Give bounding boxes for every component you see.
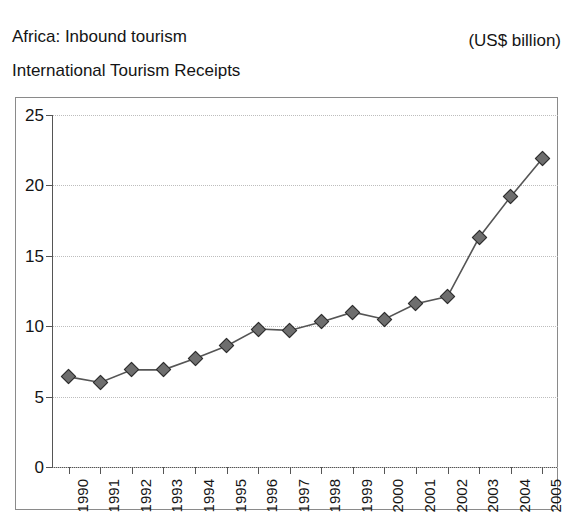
x-axis-tick-label: 1992 — [138, 479, 153, 512]
y-axis-tick — [46, 256, 53, 257]
x-axis-tick — [195, 467, 196, 474]
x-axis-tick-label: 1997 — [296, 479, 311, 512]
x-axis-tick — [227, 467, 228, 474]
x-axis-tick-label: 2003 — [485, 479, 500, 512]
gridline — [53, 467, 558, 468]
x-axis-tick-label: 2000 — [390, 479, 405, 512]
x-axis-tick — [290, 467, 291, 474]
chart-subtitle: International Tourism Receipts — [12, 56, 561, 86]
x-axis-tick-label: 1994 — [201, 479, 216, 512]
y-axis-tick-label: 0 — [18, 459, 44, 476]
x-axis-tick — [416, 467, 417, 474]
y-axis-tick — [46, 326, 53, 327]
x-axis-tick-label: 1990 — [75, 479, 90, 512]
x-axis-tick — [384, 467, 385, 474]
x-axis-tick-label: 2002 — [454, 479, 469, 512]
y-axis-tick — [46, 115, 53, 116]
chart-frame: 0510152025 19901991199219931994199519961… — [15, 97, 558, 510]
x-axis-tick — [132, 467, 133, 474]
x-axis-tick — [542, 467, 543, 474]
y-axis-tick-label: 25 — [18, 107, 44, 124]
x-axis-tick-label: 2005 — [548, 479, 563, 512]
y-axis-labels: 0510152025 — [16, 98, 44, 511]
x-axis-tick — [511, 467, 512, 474]
x-axis-tick — [163, 467, 164, 474]
x-axis-tick-label: 1998 — [327, 479, 342, 512]
x-axis-tick — [258, 467, 259, 474]
x-axis-tick-label: 1991 — [106, 479, 121, 512]
x-axis-tick — [321, 467, 322, 474]
plot-area — [53, 115, 558, 467]
y-axis-tick-label: 10 — [18, 318, 44, 335]
series-line — [53, 115, 558, 467]
y-axis-tick — [46, 185, 53, 186]
x-axis-tick-label: 2004 — [517, 479, 532, 512]
y-axis-tick-label: 20 — [18, 177, 44, 194]
x-axis-tick-label: 2001 — [422, 479, 437, 512]
x-axis-tick — [479, 467, 480, 474]
y-axis-tick — [46, 397, 53, 398]
x-axis-tick — [100, 467, 101, 474]
x-axis-tick — [448, 467, 449, 474]
units-label: (US$ billion) — [468, 26, 561, 56]
x-axis-tick-label: 1995 — [233, 479, 248, 512]
y-axis-tick — [46, 467, 53, 468]
x-axis-tick-label: 1996 — [264, 479, 279, 512]
y-axis-tick-label: 15 — [18, 247, 44, 264]
x-axis-tick-label: 1993 — [169, 479, 184, 512]
x-axis-tick — [353, 467, 354, 474]
y-axis-tick-label: 5 — [18, 388, 44, 405]
chart-header: Africa: Inbound tourism International To… — [12, 22, 561, 82]
x-axis-tick — [69, 467, 70, 474]
x-axis-tick-label: 1999 — [359, 479, 374, 512]
